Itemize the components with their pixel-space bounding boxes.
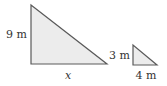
large-triangle: 9 m x <box>6 5 107 82</box>
large-triangle-base-label: x <box>65 69 72 82</box>
small-triangle: 3 m 4 m <box>109 45 157 82</box>
large-triangle-shape <box>31 5 107 64</box>
small-triangle-shape <box>133 45 157 65</box>
small-triangle-height-label: 3 m <box>109 49 130 62</box>
small-triangle-base-label: 4 m <box>136 69 157 82</box>
similar-triangles-figure: 9 m x 3 m 4 m <box>0 0 167 86</box>
large-triangle-height-label: 9 m <box>6 28 27 41</box>
